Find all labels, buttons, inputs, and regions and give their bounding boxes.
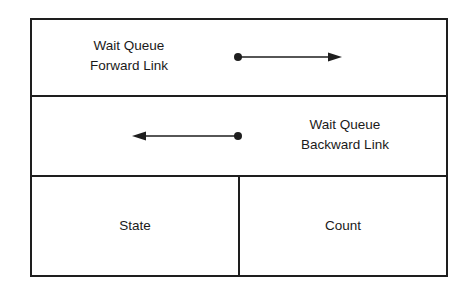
link-arrows — [0, 0, 469, 292]
backward-link-arrow-icon — [132, 132, 242, 141]
forward-link-arrow-icon — [234, 53, 342, 62]
